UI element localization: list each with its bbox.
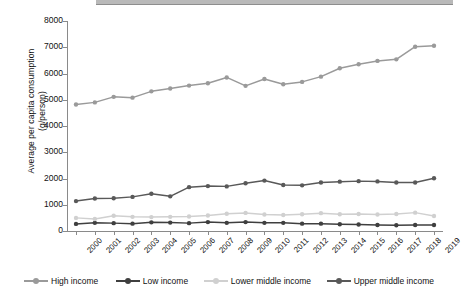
series-line	[76, 178, 434, 201]
data-point	[319, 221, 323, 225]
legend-marker-icon	[24, 276, 48, 286]
data-point	[93, 221, 97, 225]
data-point	[338, 179, 342, 183]
series-line	[76, 213, 434, 219]
data-point	[168, 194, 172, 198]
data-point	[130, 95, 134, 99]
data-point	[375, 212, 379, 216]
data-point	[432, 214, 436, 218]
data-point	[187, 185, 191, 189]
data-point	[187, 83, 191, 87]
series-upper-middle-income	[74, 176, 436, 203]
data-point	[413, 223, 417, 227]
data-point	[394, 180, 398, 184]
data-point	[262, 212, 266, 216]
legend-dot	[336, 278, 342, 284]
data-point	[281, 213, 285, 217]
data-point	[338, 212, 342, 216]
data-point	[93, 196, 97, 200]
data-point	[300, 221, 304, 225]
data-point	[225, 211, 229, 215]
data-point	[319, 180, 323, 184]
data-point	[206, 220, 210, 224]
data-point	[375, 223, 379, 227]
data-point	[206, 81, 210, 85]
data-point	[338, 66, 342, 70]
data-point	[111, 214, 115, 218]
data-point	[111, 196, 115, 200]
series-low-income	[74, 220, 436, 228]
data-point	[262, 77, 266, 81]
data-point	[356, 179, 360, 183]
data-point	[225, 221, 229, 225]
data-point	[149, 192, 153, 196]
data-point	[319, 74, 323, 78]
data-point	[338, 222, 342, 226]
data-point	[130, 221, 134, 225]
legend-marker-icon	[204, 276, 228, 286]
legend-marker-icon	[327, 276, 351, 286]
data-point	[413, 45, 417, 49]
data-point	[74, 199, 78, 203]
data-point	[206, 184, 210, 188]
legend-label: Upper middle income	[354, 276, 434, 286]
data-point	[281, 82, 285, 86]
series-high-income	[74, 43, 436, 106]
data-point	[111, 95, 115, 99]
data-point	[262, 221, 266, 225]
data-point	[394, 223, 398, 227]
data-point	[130, 195, 134, 199]
legend-item-lower-middle-income[interactable]: Lower middle income	[204, 276, 311, 286]
data-point	[225, 184, 229, 188]
data-point	[262, 178, 266, 182]
data-point	[432, 176, 436, 180]
data-point	[111, 221, 115, 225]
legend-item-upper-middle-income[interactable]: Upper middle income	[327, 276, 434, 286]
series-line	[76, 46, 434, 105]
data-point	[432, 223, 436, 227]
legend-label: High income	[51, 276, 98, 286]
data-point	[319, 211, 323, 215]
data-point	[168, 86, 172, 90]
data-point	[93, 217, 97, 221]
data-point	[243, 220, 247, 224]
data-point	[356, 62, 360, 66]
legend-dot	[33, 278, 39, 284]
series-lower-middle-income	[74, 210, 436, 221]
data-point	[168, 220, 172, 224]
data-point	[300, 212, 304, 216]
data-point	[225, 75, 229, 79]
legend-item-high-income[interactable]: High income	[24, 276, 98, 286]
data-point	[187, 221, 191, 225]
legend-dot	[125, 278, 131, 284]
data-point	[206, 213, 210, 217]
data-point	[130, 215, 134, 219]
data-point	[93, 100, 97, 104]
data-point	[243, 211, 247, 215]
data-point	[394, 57, 398, 61]
data-point	[149, 215, 153, 219]
data-point	[394, 212, 398, 216]
data-point	[356, 212, 360, 216]
legend-label: Lower middle income	[231, 276, 311, 286]
data-point	[413, 180, 417, 184]
data-point	[168, 215, 172, 219]
legend-label: Low income	[143, 276, 188, 286]
legend-item-low-income[interactable]: Low income	[116, 276, 188, 286]
data-point	[149, 220, 153, 224]
data-point	[74, 216, 78, 220]
data-point	[375, 179, 379, 183]
chart-legend: High income Low income Lower middle inco…	[24, 273, 434, 289]
data-point	[300, 183, 304, 187]
data-point	[413, 210, 417, 214]
data-point	[432, 43, 436, 47]
data-point	[74, 222, 78, 226]
legend-dot	[213, 278, 219, 284]
data-point	[300, 80, 304, 84]
data-point	[281, 221, 285, 225]
legend-marker-icon	[116, 276, 140, 286]
data-point	[375, 59, 379, 63]
data-point	[149, 89, 153, 93]
